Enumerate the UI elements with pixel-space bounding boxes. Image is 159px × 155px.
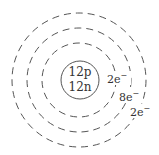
nucleus-neutrons: 12n	[69, 80, 92, 94]
nucleus-protons: 12p	[69, 65, 92, 79]
bohr-diagram: 12p 12n 2e− 8e− 2e−	[0, 0, 159, 155]
